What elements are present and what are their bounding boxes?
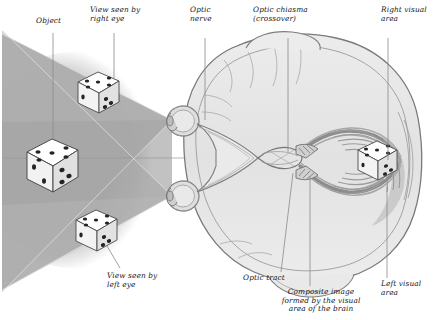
- left-eye: [167, 181, 199, 211]
- label-optic-tract: Optic tract: [243, 274, 305, 283]
- visual-pathway-illustration: [0, 0, 444, 320]
- right-lens: [167, 116, 173, 126]
- label-optic-nerve: Optic nerve: [190, 6, 238, 23]
- label-view-left-eye: View seen by left eye: [107, 272, 179, 289]
- label-left-visual-area: Left visual area: [381, 280, 441, 297]
- label-view-right-eye: View seen by right eye: [90, 6, 160, 23]
- label-composite-image: Composite image formed by the visual are…: [268, 288, 374, 314]
- left-lens: [167, 191, 173, 201]
- right-eye: [167, 106, 199, 136]
- label-object: Object: [36, 17, 92, 26]
- figure-canvas: Object View seen by right eye Optic nerv…: [0, 0, 444, 320]
- label-right-visual-area: Right visual area: [381, 6, 443, 23]
- label-optic-chiasma: Optic chiasma (crossover): [253, 6, 337, 23]
